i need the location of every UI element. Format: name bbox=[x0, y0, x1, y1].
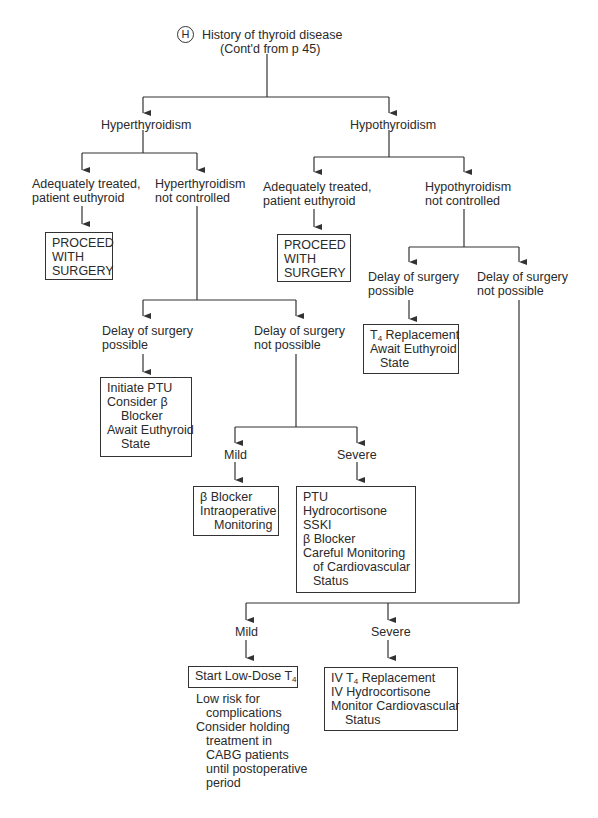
root-title: History of thyroid disease bbox=[202, 28, 342, 42]
box-line: PROCEED bbox=[52, 236, 106, 250]
hypo-delay-possible-line1: Delay of surgery bbox=[368, 270, 459, 284]
box-line: Monitoring bbox=[200, 518, 272, 532]
hypo-mild-notes: Low risk for complications Consider hold… bbox=[196, 692, 307, 790]
box-line: State bbox=[107, 437, 185, 451]
note-line: until postoperative bbox=[196, 762, 307, 776]
hypo-start-low-dose-t4-box: Start Low-Dose T4 bbox=[188, 666, 298, 688]
note-line: treatment in bbox=[196, 734, 307, 748]
note-line: CABG patients bbox=[196, 748, 307, 762]
hyper-mild-beta-blocker-box: β Blocker Intraoperative Monitoring bbox=[193, 486, 279, 536]
hypo-delay-not-possible-line1: Delay of surgery bbox=[477, 270, 568, 284]
box-line: State bbox=[370, 356, 452, 370]
hypo-delay-not-possible-line2: not possible bbox=[477, 284, 568, 298]
box-line: Await Euthyroid bbox=[107, 423, 185, 437]
hypo-delay-possible-node: Delay of surgery possible bbox=[368, 270, 459, 298]
hyper-delay-not-possible-node: Delay of surgery not possible bbox=[254, 324, 345, 352]
box-line: PTU bbox=[303, 490, 409, 504]
hyper-proceed-with-surgery-box: PROCEED WITH SURGERY bbox=[45, 232, 113, 280]
hyperthyroidism-node: Hyperthyroidism bbox=[101, 118, 191, 132]
hypo-not-controlled-line1: Hypothyroidism bbox=[425, 180, 511, 194]
hyper-not-controlled-line1: Hyperthyroidism bbox=[155, 177, 245, 191]
hyper-delay-possible-line1: Delay of surgery bbox=[102, 324, 193, 338]
hyper-not-controlled-line2: not controlled bbox=[155, 191, 245, 205]
box-line: IV Hydrocortisone bbox=[331, 685, 451, 699]
hyper-treated-node: Adequately treated, patient euthyroid bbox=[32, 177, 140, 205]
box-line: T4 Replacement bbox=[370, 328, 452, 342]
box-line: β Blocker bbox=[303, 532, 409, 546]
hypo-t4-replacement-box: T4 Replacement Await Euthyroid State bbox=[363, 324, 459, 374]
note-line: Low risk for bbox=[196, 692, 307, 706]
box-line: Hydrocortisone bbox=[303, 504, 409, 518]
hypo-not-controlled-node: Hypothyroidism not controlled bbox=[425, 180, 511, 208]
box-line: SURGERY bbox=[284, 266, 344, 280]
hypothyroidism-node: Hypothyroidism bbox=[350, 118, 436, 132]
note-line: Consider holding bbox=[196, 720, 307, 734]
box-line: Status bbox=[331, 713, 451, 727]
hypo-mild-node: Mild bbox=[235, 625, 258, 639]
hypo-proceed-with-surgery-box: PROCEED WITH SURGERY bbox=[277, 234, 351, 282]
box-line: SURGERY bbox=[52, 264, 106, 278]
hyper-not-controlled-node: Hyperthyroidism not controlled bbox=[155, 177, 245, 205]
box-line: Careful Monitoring bbox=[303, 546, 409, 560]
box-line: Await Euthyroid bbox=[370, 342, 452, 356]
note-line: period bbox=[196, 776, 307, 790]
note-line: complications bbox=[196, 706, 307, 720]
hyper-severe-treatment-box: PTU Hydrocortisone SSKI β Blocker Carefu… bbox=[296, 486, 416, 593]
hypo-treated-line1: Adequately treated, bbox=[263, 180, 371, 194]
hyper-initiate-ptu-box: Initiate PTU Consider β Blocker Await Eu… bbox=[100, 377, 192, 457]
box-line: SSKI bbox=[303, 518, 409, 532]
hypo-delay-possible-line2: possible bbox=[368, 284, 459, 298]
hyper-treated-line1: Adequately treated, bbox=[32, 177, 140, 191]
hypo-not-controlled-line2: not controlled bbox=[425, 194, 511, 208]
box-line: of Cardiovascular bbox=[303, 560, 409, 574]
box-line: WITH bbox=[52, 250, 106, 264]
box-line: Status bbox=[303, 574, 409, 588]
section-marker-h: H bbox=[177, 26, 194, 43]
hypo-severe-node: Severe bbox=[371, 625, 411, 639]
hypo-delay-not-possible-node: Delay of surgery not possible bbox=[477, 270, 568, 298]
box-line: Monitor Cardiovascular bbox=[331, 699, 451, 713]
root-subtitle: (Cont'd from p 45) bbox=[220, 42, 320, 56]
hypo-treated-node: Adequately treated, patient euthyroid bbox=[263, 180, 371, 208]
box-line: Initiate PTU bbox=[107, 381, 185, 395]
box-line: Blocker bbox=[107, 409, 185, 423]
box-line: WITH bbox=[284, 252, 344, 266]
box-line: β Blocker bbox=[200, 490, 272, 504]
box-line: IV T4 Replacement bbox=[331, 671, 451, 685]
hyper-delay-not-possible-line2: not possible bbox=[254, 338, 345, 352]
box-line: Intraoperative bbox=[200, 504, 272, 518]
hyper-delay-not-possible-line1: Delay of surgery bbox=[254, 324, 345, 338]
hyper-delay-possible-node: Delay of surgery possible bbox=[102, 324, 193, 352]
box-line: Consider β bbox=[107, 395, 185, 409]
box-line: PROCEED bbox=[284, 238, 344, 252]
hyper-treated-line2: patient euthyroid bbox=[32, 191, 140, 205]
hyper-mild-node: Mild bbox=[224, 448, 247, 462]
hyper-severe-node: Severe bbox=[337, 448, 377, 462]
hypo-treated-line2: patient euthyroid bbox=[263, 194, 371, 208]
hypo-severe-iv-treatment-box: IV T4 Replacement IV Hydrocortisone Moni… bbox=[324, 667, 458, 731]
hyper-delay-possible-line2: possible bbox=[102, 338, 193, 352]
